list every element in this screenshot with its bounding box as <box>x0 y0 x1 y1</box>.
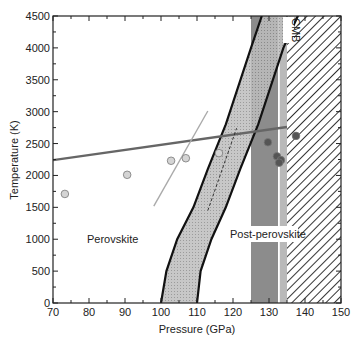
perovskite-label: Perovskite <box>87 233 138 245</box>
cmb-label: CMB <box>290 18 302 42</box>
light-points-marker <box>123 171 131 179</box>
y-tick-label: 4000 <box>26 42 50 54</box>
x-tick-label: 140 <box>296 306 314 318</box>
y-tick-label: 3500 <box>26 74 50 86</box>
hatched-core-region <box>287 16 341 303</box>
post-perovskite-label: Post-perovskite <box>230 228 306 240</box>
phase-diagram-chart: 7080901001101201301401500500100015002000… <box>0 0 359 341</box>
x-tick-label: 110 <box>188 306 206 318</box>
y-tick-label: 4500 <box>26 10 50 22</box>
dark-points-marker <box>292 132 300 140</box>
light-points-marker <box>182 154 190 162</box>
x-axis-title: Pressure (GPa) <box>159 323 235 335</box>
x-tick-label: 130 <box>260 306 278 318</box>
y-tick-label: 500 <box>32 265 50 277</box>
x-tick-label: 90 <box>119 306 131 318</box>
y-tick-label: 2500 <box>26 138 50 150</box>
dark-points-marker <box>264 138 272 146</box>
x-tick-label: 150 <box>332 306 350 318</box>
x-tick-label: 100 <box>152 306 170 318</box>
light-points-marker <box>167 157 175 165</box>
y-tick-label: 0 <box>44 297 50 309</box>
dark-points-marker <box>275 159 283 167</box>
y-tick-label: 2000 <box>26 169 50 181</box>
y-axis-title: Temperature (K) <box>8 120 20 199</box>
light-points-marker <box>61 190 69 198</box>
x-tick-label: 120 <box>224 306 242 318</box>
y-tick-label: 1500 <box>26 201 50 213</box>
light-points-marker <box>215 149 223 157</box>
y-tick-label: 3000 <box>26 106 50 118</box>
y-tick-label: 1000 <box>26 233 50 245</box>
x-tick-label: 80 <box>83 306 95 318</box>
